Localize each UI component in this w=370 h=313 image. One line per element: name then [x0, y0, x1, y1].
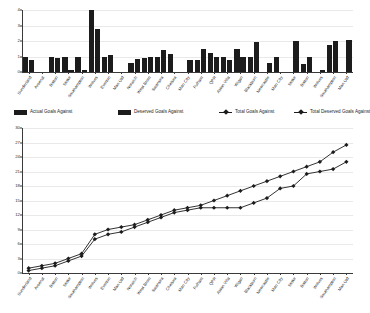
data-point-marker: [119, 230, 123, 234]
data-point-marker: [185, 208, 189, 212]
bar-x-tick-label: Fulham: [193, 76, 204, 90]
line-x-tick-label: Newcastle: [256, 277, 271, 295]
bar-actual-goals-against: [248, 57, 253, 73]
line-x-tick-label: Wigan: [234, 277, 244, 289]
bar-actual-goals-against: [102, 57, 107, 73]
bar-group: [300, 10, 313, 72]
data-point-marker: [331, 167, 335, 171]
bar-group: [340, 10, 353, 72]
bar-group: [327, 10, 340, 72]
line-x-tick-label: Man City: [271, 277, 284, 293]
data-point-marker: [212, 198, 216, 202]
line-x-tick-label: Bolton: [300, 277, 310, 289]
bar-deserved-goals-against: [267, 63, 272, 72]
data-point-marker: [212, 206, 216, 210]
bar-x-tick-label: Swansea: [151, 76, 164, 93]
bar-deserved-goals-against: [187, 60, 192, 72]
bar-group: [115, 10, 128, 72]
bar-deserved-goals-against: [254, 42, 259, 72]
bar-actual-goals-against: [195, 60, 200, 72]
bar-group: [313, 10, 326, 72]
data-point-marker: [132, 225, 136, 229]
data-point-marker: [252, 201, 256, 205]
bar-chart-plot-area: 01234SunderlandArsenalBoltonStokeSoutham…: [22, 10, 353, 72]
data-point-marker: [291, 169, 295, 173]
bar-group: [181, 10, 194, 72]
bar-actual-goals-against: [142, 58, 147, 72]
bar-x-tick-label: Stoke: [288, 76, 298, 87]
data-point-marker: [278, 174, 282, 178]
bar-deserved-goals-against: [240, 57, 245, 73]
line-x-tick-label: Wolves: [87, 277, 98, 291]
bar-deserved-goals-against: [55, 58, 60, 72]
data-point-marker: [344, 143, 348, 147]
data-point-marker: [225, 194, 229, 198]
line-x-tick-label: Stoke: [63, 277, 73, 288]
bar-group: [101, 10, 114, 72]
bar-deserved-goals-against: [148, 57, 153, 73]
data-point-marker: [119, 225, 123, 229]
bar-group: [141, 10, 154, 72]
bar-deserved-goals-against: [201, 49, 206, 72]
bar-x-tick-label: Bolton: [49, 76, 59, 88]
bar-deserved-goals-against: [227, 60, 232, 72]
bar-chart-goals-against: 01234SunderlandArsenalBoltonStokeSoutham…: [22, 10, 353, 72]
bar-x-tick-label: Arsenal: [34, 76, 46, 90]
bar-actual-goals-against: [274, 57, 279, 73]
data-point-marker: [252, 184, 256, 188]
bar-group: [154, 10, 167, 72]
bar-group: [22, 10, 35, 72]
line-series-layer: [22, 128, 353, 273]
legend-item-1: Actual Goals Against: [14, 110, 72, 115]
bar-x-tick-label: Sunderland: [17, 76, 33, 96]
bar-x-tick-label: Everton: [100, 76, 112, 90]
bar-group: [207, 10, 220, 72]
bar-group: [221, 10, 234, 72]
bar-group: [75, 10, 88, 72]
bar-group: [88, 10, 101, 72]
legend-item-3: Total Goals Against: [219, 110, 274, 115]
line-x-tick-label: Swansea: [151, 277, 164, 294]
line-x-tick-label: West Brom: [136, 277, 151, 296]
line-x-tick-label: Everton: [100, 277, 112, 291]
data-point-marker: [225, 206, 229, 210]
line-x-tick-label: Sunderland: [17, 277, 33, 297]
legend-label: Actual Goals Against: [30, 110, 72, 115]
bar-deserved-goals-against: [307, 57, 312, 73]
data-point-marker: [265, 179, 269, 183]
line-x-tick-label: Fulham: [193, 277, 204, 291]
data-point-marker: [344, 160, 348, 164]
line-x-tick-label: Stoke: [288, 277, 298, 288]
legend-item-4: Total Deserved Goals Against: [294, 110, 370, 115]
bar-deserved-goals-against: [29, 60, 34, 72]
line-marker-icon: [294, 110, 307, 115]
bar-group: [247, 10, 260, 72]
legend-label: Deserved Goals Against: [134, 110, 183, 115]
bar-actual-goals-against: [89, 10, 94, 72]
bar-group: [234, 10, 247, 72]
data-point-marker: [238, 189, 242, 193]
bar-deserved-goals-against: [214, 57, 219, 73]
line-x-tick-label: Norwich: [126, 277, 138, 292]
data-point-marker: [40, 266, 44, 270]
bar-actual-goals-against: [49, 57, 54, 73]
bar-group: [35, 10, 48, 72]
bar-actual-goals-against: [234, 49, 239, 72]
data-point-marker: [305, 165, 309, 169]
line-x-tick-label: Man Utd: [338, 277, 351, 292]
swatch-icon: [14, 110, 27, 115]
data-point-marker: [199, 206, 203, 210]
swatch-icon: [118, 110, 131, 115]
bar-deserved-goals-against: [333, 41, 338, 72]
line-x-tick-label: Arsenal: [34, 277, 46, 291]
bar-group: [274, 10, 287, 72]
chart-legend: Actual Goals AgainstDeserved Goals Again…: [14, 107, 354, 117]
line-total-deserved-goals-against: [29, 162, 347, 271]
bar-x-tick-label: Wigan: [234, 76, 244, 88]
line-x-tick-label: QPR: [209, 277, 218, 287]
bar-x-tick-label: West Brom: [136, 76, 151, 95]
line-x-tick-label: Man City: [178, 277, 191, 293]
bar-x-tick-label: Man City: [178, 76, 191, 92]
bar-x-tick-label: Man Utd: [113, 76, 126, 91]
